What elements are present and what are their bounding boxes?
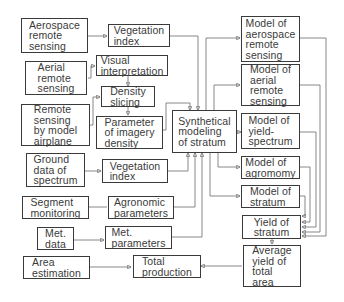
node-parameter-imagery-density: Parameter of imagery density xyxy=(96,116,163,149)
node-density-slicing: Density slicing xyxy=(101,86,155,107)
node-label: Met. parameters xyxy=(111,227,165,248)
node-label: Model of yield- spectrum xyxy=(249,115,293,147)
node-label: Aerospace remote sensing xyxy=(29,20,80,52)
node-label: Segment monitoring xyxy=(30,197,80,218)
node-model-agromomy: Model of agromomy xyxy=(241,156,300,179)
node-label: Total production xyxy=(142,256,192,277)
node-label: Aerial remote sensing xyxy=(38,62,75,94)
node-model-aerial: Model of aerial remote sensing xyxy=(241,64,300,106)
node-vegetation-index-top: Vegetation index xyxy=(108,24,170,47)
node-label: Average yield of total area xyxy=(252,245,292,287)
node-model-stratum: Model of stratum xyxy=(241,185,300,208)
node-synthetical-modeling: Synthetical modeling of stratum xyxy=(172,110,237,153)
node-label: Vegetation index xyxy=(110,161,161,182)
node-aerospace-remote-sensing: Aerospace remote sensing xyxy=(21,18,88,53)
node-label: Parameter of imagery density xyxy=(104,117,154,149)
node-ground-data-spectrum: Ground data of spectrum xyxy=(26,153,85,187)
node-met-parameters: Met. parameters xyxy=(105,226,172,249)
node-yield-of-stratum: Yield of stratum xyxy=(242,215,301,239)
node-label: Model of aerospace remote sensing xyxy=(246,18,296,60)
node-agronomic-parameters: Agronomic parameters xyxy=(108,196,174,219)
node-label: Model of agromomy xyxy=(245,157,295,178)
node-label: Visual interpretation xyxy=(101,55,164,76)
node-label: Agronomic parameters xyxy=(114,197,168,218)
node-label: Vegetation index xyxy=(114,25,165,46)
node-label: Density slicing xyxy=(110,86,146,107)
node-aerial-remote-sensing: Aerial remote sensing xyxy=(25,61,87,95)
node-visual-interpretation: Visual interpretation xyxy=(96,55,168,76)
node-segment-monitoring: Segment monitoring xyxy=(22,196,89,219)
node-label: Yield of stratum xyxy=(254,217,290,238)
node-label: Area estimation xyxy=(32,257,81,278)
node-remote-sensing-model-airplane: Remote sensing by model airplane xyxy=(21,104,90,146)
node-label: Synthetical modeling of stratum xyxy=(178,116,230,148)
node-total-production: Total production xyxy=(133,255,201,278)
node-average-yield: Average yield of total area xyxy=(243,245,301,287)
node-area-estimation: Area estimation xyxy=(23,256,90,279)
node-label: Remote sensing by model airplane xyxy=(34,104,77,146)
node-model-yield-spectrum: Model of yield- spectrum xyxy=(241,113,300,149)
node-label: Met. data xyxy=(45,228,66,249)
node-vegetation-index-ground: Vegetation index xyxy=(102,159,168,183)
node-label: Ground data of spectrum xyxy=(34,154,78,186)
node-label: Model of aerial remote sensing xyxy=(250,64,291,106)
node-label: Model of stratum xyxy=(250,186,291,207)
node-model-aerospace: Model of aerospace remote sensing xyxy=(241,16,300,62)
node-met-data: Met. data xyxy=(37,227,74,250)
